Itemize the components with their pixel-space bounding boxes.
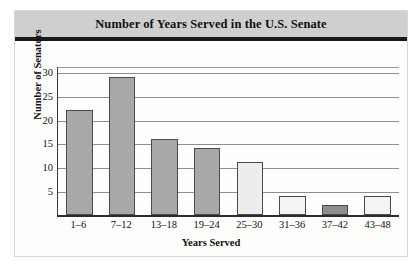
bar	[109, 77, 135, 215]
y-tick-label: 10	[43, 162, 54, 173]
x-tick-label: 43–48	[365, 219, 391, 230]
bar	[322, 205, 348, 215]
bar	[237, 162, 263, 215]
x-axis-tick-labels: 1–67–1213–1819–2425–3031–3637–4243–48	[57, 219, 399, 235]
x-tick-label: 25–30	[236, 219, 262, 230]
y-tick-label: 20	[43, 114, 54, 125]
x-tick-label: 1–6	[71, 219, 87, 230]
x-tick-label: 19–24	[194, 219, 220, 230]
x-tick-label: 31–36	[279, 219, 305, 230]
y-tick-label: 25	[43, 90, 54, 101]
y-axis-tick-labels: 51015202530	[29, 67, 55, 215]
x-tick-label: 13–18	[151, 219, 177, 230]
chart-title: Number of Years Served in the U.S. Senat…	[95, 17, 327, 32]
x-axis-line	[57, 215, 399, 217]
y-tick-label: 30	[43, 66, 54, 77]
bar	[194, 148, 220, 215]
bar	[279, 196, 305, 215]
chart-title-band: Number of Years Served in the U.S. Senat…	[15, 11, 407, 37]
bar-series	[58, 68, 399, 215]
y-tick-label: 15	[43, 138, 54, 149]
x-tick-label: 37–42	[322, 219, 348, 230]
plot-area	[57, 67, 399, 215]
bar	[151, 139, 177, 215]
y-tick-label: 5	[48, 186, 53, 197]
x-axis-label: Years Served	[15, 237, 407, 248]
plot-region: Number of Senators 51015202530 1–67–1213…	[15, 41, 407, 256]
chart-figure: Number of Years Served in the U.S. Senat…	[14, 10, 408, 257]
bar	[66, 110, 92, 215]
bar	[364, 196, 390, 215]
x-tick-label: 7–12	[111, 219, 132, 230]
